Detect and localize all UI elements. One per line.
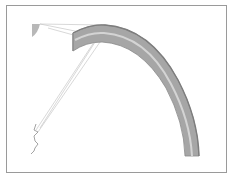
sector-shape bbox=[32, 24, 40, 37]
diagram-canvas bbox=[0, 0, 233, 178]
arc-segment bbox=[73, 25, 199, 156]
